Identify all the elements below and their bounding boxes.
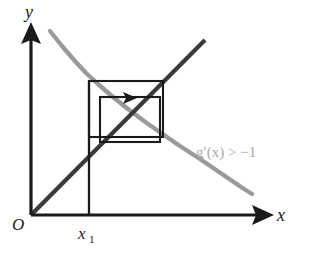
x1-tick-label: x [77,224,86,243]
x-axis-label: x [276,205,285,225]
cobweb-diagram-figure: x y O x 1 g′(x) > −1 [0,0,317,253]
x1-tick-subscript: 1 [89,233,95,245]
g-derivative-annotation: g′(x) > −1 [196,144,256,161]
diagram-canvas: x y O x 1 g′(x) > −1 [0,0,317,253]
origin-label: O [12,215,24,234]
y-axis-label: y [23,2,33,22]
